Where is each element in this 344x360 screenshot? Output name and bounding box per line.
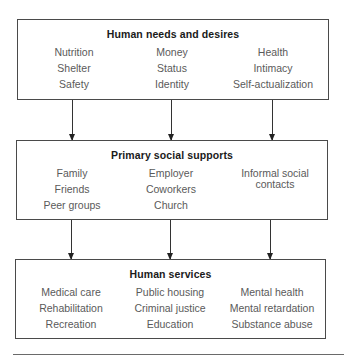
item-mental-retardation: Mental retardation: [220, 300, 324, 316]
box-title-primary-social-supports: Primary social supports: [17, 149, 327, 161]
column-public-services: Public housing Criminal justice Educatio…: [120, 284, 220, 332]
item-public-housing: Public housing: [120, 284, 220, 300]
item-recreation: Recreation: [21, 316, 121, 332]
item-peer-groups: Peer groups: [22, 197, 122, 213]
item-friends: Friends: [22, 181, 122, 197]
arrow-down-right-1: [272, 100, 273, 140]
arrow-down-right-2: [270, 220, 271, 259]
item-medical-care: Medical care: [21, 284, 121, 300]
item-coworkers: Coworkers: [121, 181, 221, 197]
item-status: Status: [122, 60, 222, 76]
column-informal-supports: Informal social contacts: [237, 168, 313, 190]
column-personal-needs: Health Intimacy Self-actualization: [223, 44, 323, 92]
item-nutrition: Nutrition: [24, 44, 124, 60]
item-informal-social-contacts: Informal social contacts: [237, 168, 313, 190]
item-health: Health: [223, 44, 323, 60]
column-basic-needs: Nutrition Shelter Safety: [24, 44, 124, 92]
item-education: Education: [120, 316, 220, 332]
arrow-down-center-2: [170, 220, 171, 259]
item-substance-abuse: Substance abuse: [220, 316, 324, 332]
bottom-divider-rule: [13, 354, 344, 355]
item-intimacy: Intimacy: [223, 60, 323, 76]
column-personal-supports: Family Friends Peer groups: [22, 165, 122, 213]
item-mental-health: Mental health: [220, 284, 324, 300]
item-identity: Identity: [122, 76, 222, 92]
item-family: Family: [22, 165, 122, 181]
box-primary-social-supports: Primary social supports Family Friends P…: [16, 140, 328, 220]
item-self-actualization: Self-actualization: [223, 76, 323, 92]
item-shelter: Shelter: [24, 60, 124, 76]
column-institutional-supports: Employer Coworkers Church: [121, 165, 221, 213]
item-employer: Employer: [121, 165, 221, 181]
box-human-services: Human services Medical care Rehabilitati…: [15, 259, 326, 339]
arrow-down-left-1: [72, 100, 73, 140]
box-title-human-services: Human services: [16, 268, 325, 280]
column-health-services: Medical care Rehabilitation Recreation: [21, 284, 121, 332]
arrow-down-center-1: [171, 100, 172, 140]
arrow-down-left-2: [71, 220, 72, 259]
column-social-needs: Money Status Identity: [122, 44, 222, 92]
item-money: Money: [122, 44, 222, 60]
item-safety: Safety: [24, 76, 124, 92]
column-mental-services: Mental health Mental retardation Substan…: [220, 284, 324, 332]
box-human-needs: Human needs and desires Nutrition Shelte…: [17, 19, 329, 100]
item-criminal-justice: Criminal justice: [120, 300, 220, 316]
item-church: Church: [121, 197, 221, 213]
box-title-human-needs: Human needs and desires: [18, 28, 328, 40]
item-rehabilitation: Rehabilitation: [21, 300, 121, 316]
